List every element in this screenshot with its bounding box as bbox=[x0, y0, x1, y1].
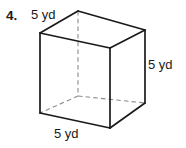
cube-drawing bbox=[0, 0, 186, 148]
cube-figure: 4. 5 yd 5 yd 5 yd bbox=[0, 0, 186, 148]
visible-edges-group bbox=[40, 11, 145, 128]
dimension-label-bottom: 5 yd bbox=[54, 127, 79, 140]
problem-number: 4. bbox=[6, 9, 17, 23]
top-front-left-edge bbox=[40, 33, 110, 48]
dimension-label-top: 5 yd bbox=[31, 8, 56, 21]
bottom-front-right-edge bbox=[110, 103, 145, 128]
hidden-bottom-left-edge bbox=[40, 96, 78, 113]
dimension-label-right: 5 yd bbox=[148, 58, 173, 71]
top-back-right-edge bbox=[78, 11, 145, 30]
hidden-bottom-right-edge bbox=[78, 96, 145, 103]
top-front-right-edge bbox=[110, 30, 145, 48]
